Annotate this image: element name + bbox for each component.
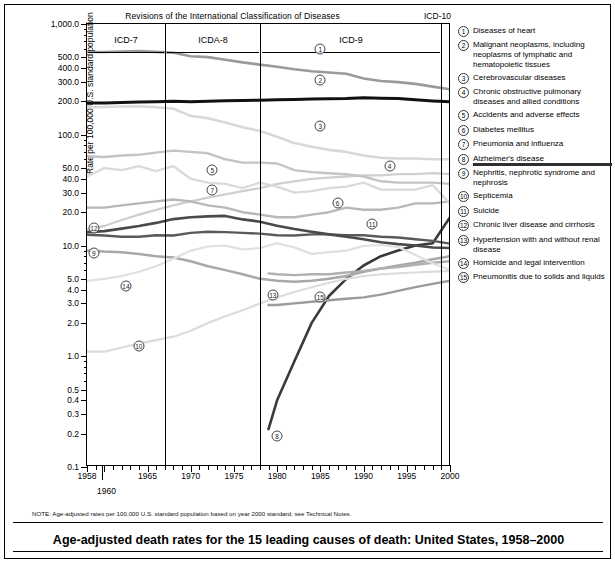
y-tick-1 [81, 356, 87, 357]
y-tick-0.2 [81, 434, 87, 435]
y-tick-label-200: 200.0 [58, 96, 79, 106]
legend-number-14: 14 [458, 258, 469, 269]
legend-number-9: 9 [458, 168, 469, 179]
series-line-12 [87, 216, 450, 248]
x-tick-1959 [96, 465, 97, 470]
panel-label-icda8: ICDA-8 [167, 35, 259, 45]
x-tick-1964 [139, 465, 140, 470]
x-tick-1972 [208, 465, 209, 470]
legend-label-4: Chronic obstructive pulmonary diseases a… [473, 87, 608, 107]
title-rule-top [13, 522, 603, 523]
plot-marker-10: 10 [133, 340, 144, 351]
legend-number-6: 6 [458, 125, 469, 136]
x-tick-1986 [329, 465, 330, 470]
legend-item-1: 1Diseases of heart [458, 25, 608, 37]
y-tick-label-0.4: 0.4 [67, 395, 79, 405]
plot-marker-15: 15 [315, 292, 326, 303]
x-tick-1976 [243, 465, 244, 470]
legend-item-10: 10Septicemia [458, 191, 608, 203]
legend-number-2: 2 [458, 40, 469, 51]
plot-marker-3: 3 [315, 120, 326, 131]
legend-number-12: 12 [458, 220, 469, 231]
y-tick-50 [81, 168, 87, 169]
series-line-1 [87, 51, 450, 89]
x-tick-1992 [381, 465, 382, 470]
panel-label-icd9: ICD-9 [262, 35, 440, 45]
y-tick-label-0.3: 0.3 [67, 409, 79, 419]
legend-label-12: Chronic liver disease and cirrhosis [473, 220, 608, 230]
plot-marker-14: 14 [120, 281, 131, 292]
x-tick-1999 [441, 465, 442, 470]
y-tick-4 [81, 290, 87, 291]
y-tick-label-400: 400.0 [58, 63, 79, 73]
x-label-1960: 1960 [97, 486, 116, 496]
panel-divider-1968 [165, 24, 166, 465]
legend-label-11: Suicide [473, 205, 608, 215]
x-tick-1989 [355, 465, 356, 470]
x-tick-label-1970: 1970 [181, 471, 200, 481]
legend-item-12: 12Chronic liver disease and cirrhosis [458, 220, 608, 232]
x-tick-label-2000: 2000 [441, 471, 460, 481]
y-tick-label-40: 40.0 [62, 174, 79, 184]
x-tick-1977 [251, 465, 252, 470]
series-line-10 [87, 271, 450, 352]
x-tick-label-1995: 1995 [397, 471, 416, 481]
x-tick-1981 [286, 465, 287, 470]
plot-marker-11: 11 [367, 219, 378, 230]
legend-item-4: 4Chronic obstructive pulmonary diseases … [458, 87, 608, 107]
y-tick-label-0.2: 0.2 [67, 429, 79, 439]
panel-divider-1999 [441, 24, 442, 465]
y-tick-label-300: 300.0 [58, 77, 79, 87]
x-tick-1997 [424, 465, 425, 470]
x-tick-1961 [113, 465, 114, 470]
x-tick-1988 [346, 465, 347, 470]
x-tick-label-1990: 1990 [354, 471, 373, 481]
y-minor-tick [84, 381, 88, 382]
y-tick-0.5 [81, 390, 87, 391]
plot-marker-7: 7 [207, 184, 218, 195]
x-tick-1983 [303, 465, 304, 470]
legend-item-7: 7Pneumonia and influenza [458, 139, 608, 151]
y-tick-label-0.5: 0.5 [67, 385, 79, 395]
legend-item-6: 6Diabetes mellitus [458, 124, 608, 136]
panel-rule-icd9 [262, 52, 440, 53]
y-tick-100 [81, 135, 87, 136]
plot-marker-2: 2 [315, 75, 326, 86]
title-rule-bottom [13, 551, 603, 552]
plot-right-border [449, 23, 450, 466]
legend-number-8: 8 [458, 154, 469, 165]
x-tick-1974 [225, 465, 226, 470]
y-minor-tick [84, 159, 88, 160]
panel-rule-icd7 [88, 52, 164, 53]
x-tick-1998 [433, 465, 434, 470]
y-minor-tick [84, 251, 88, 252]
x-tick-1967 [165, 465, 166, 470]
y-tick-200 [81, 101, 87, 102]
y-tick-400 [81, 68, 87, 69]
y-tick-10 [81, 246, 87, 247]
legend-label-13: Hypertension with and without renal dise… [473, 234, 608, 254]
plot-area: Rate per 100,000 U.S. standard populatio… [86, 23, 449, 466]
legend-number-13: 13 [458, 235, 469, 246]
y-tick-1000 [81, 24, 87, 25]
legend-number-1: 1 [458, 26, 469, 37]
legend-label-15: Pneumonitis due to solids and liquids [473, 272, 608, 282]
legend-item-15: 15Pneumonitis due to solids and liquids [458, 272, 608, 284]
plot-marker-12: 12 [88, 222, 99, 233]
x-tick-1982 [294, 465, 295, 470]
y-tick-label-500: 500.0 [58, 52, 79, 62]
x-tick-1987 [338, 465, 339, 470]
legend-item-8: 8Alzheimer's disease [458, 153, 608, 165]
legend-item-13: 13Hypertension with and without renal di… [458, 234, 608, 254]
x-tick-1973 [217, 465, 218, 470]
panel-rule-icda8 [167, 52, 259, 53]
y-tick-30 [81, 193, 87, 194]
y-tick-40 [81, 179, 87, 180]
figure-note: NOTE: Age-adjusted rates per 100,000 U.S… [32, 510, 351, 517]
chart-canvas [87, 24, 450, 467]
y-minor-tick [84, 367, 88, 368]
series-line-14 [87, 243, 450, 281]
x-tick-1963 [130, 465, 131, 470]
plot-marker-8: 8 [272, 431, 283, 442]
series-line-2 [87, 98, 450, 103]
